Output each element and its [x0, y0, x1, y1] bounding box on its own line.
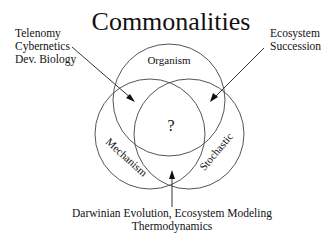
annotation-top-right-line-2: Succession [270, 40, 321, 52]
venn-diagram: Commonalities Organism Mechanism Stochas… [0, 0, 333, 237]
annotation-top-left-line-1: Telenomy [15, 27, 61, 40]
arrow-top-right [210, 48, 264, 102]
annotation-top-right-line-1: Ecosystem [270, 27, 320, 40]
annotation-bottom-line-1: Darwinian Evolution, Ecosystem Modeling [72, 207, 272, 220]
diagram-title: Commonalities [92, 7, 251, 36]
annotation-bottom-line-2: Thermodynamics [132, 220, 213, 233]
organism-label: Organism [147, 54, 191, 66]
annotation-top-left-line-2: Cybernetics [15, 40, 70, 53]
annotation-top-left-line-3: Dev. Biology [15, 53, 76, 66]
arrow-bottom [169, 170, 175, 207]
arrow-top-right-shaft [213, 48, 264, 99]
arrow-bottom-head-icon [169, 170, 175, 179]
arrow-top-left-shaft [72, 47, 132, 99]
arrow-top-left [72, 47, 135, 102]
arrow-top-right-head-icon [210, 93, 218, 102]
center-question-mark: ? [167, 117, 174, 134]
